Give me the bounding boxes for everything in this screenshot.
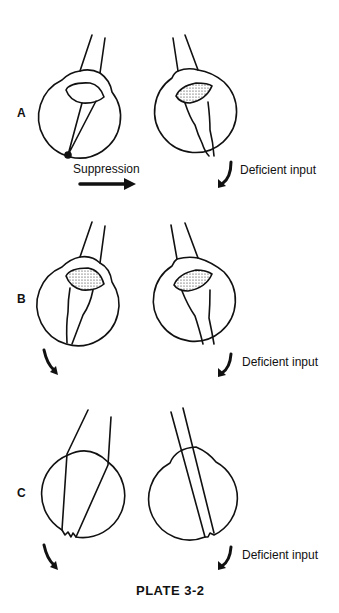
eye-a-right [155,35,237,156]
deficient-input-arrow-c [222,547,231,566]
row-label-b: B [17,292,26,306]
suppression-label: Suppression [73,162,140,176]
row-label-c: C [17,486,26,500]
eye-c-right [149,408,238,540]
eye-b-right [153,223,235,344]
row-label-a: A [17,106,26,120]
deficient-input-label-a: Deficient input [240,163,316,177]
deficient-input-arrow-b [222,354,231,373]
eye-b-left [37,222,119,346]
arrow-c-left [44,545,54,565]
arrow-b-left [44,350,54,370]
deficient-input-label-b: Deficient input [242,355,318,369]
deficient-input-label-c: Deficient input [242,548,318,562]
eye-a-left [39,35,121,158]
deficient-input-arrow-a [222,162,231,184]
plate-caption: PLATE 3-2 [136,583,205,598]
eye-diagram [0,0,339,613]
eye-c-left [42,410,125,538]
